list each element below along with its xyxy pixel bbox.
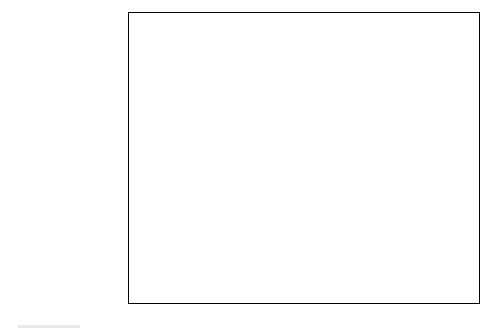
horizontal-bar-chart: [0, 0, 502, 333]
gridlines: [129, 13, 479, 303]
x-axis: [128, 305, 480, 325]
plot-area: [128, 12, 480, 304]
scan-artifact: [18, 325, 80, 328]
category-axis: [0, 12, 127, 304]
